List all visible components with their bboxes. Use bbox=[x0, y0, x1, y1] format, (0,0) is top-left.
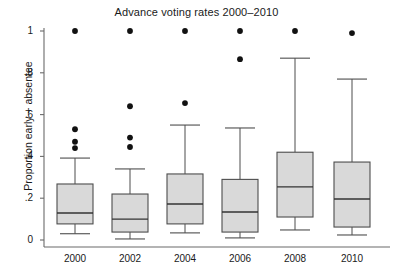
box-group-2006 bbox=[222, 28, 258, 238]
outlier-point bbox=[127, 144, 133, 150]
outlier-point bbox=[127, 135, 133, 141]
x-tick-label: 2004 bbox=[161, 254, 209, 264]
box-rect bbox=[334, 162, 370, 227]
x-tick-label: 2010 bbox=[328, 254, 376, 264]
y-tick-label: .4 bbox=[11, 151, 33, 161]
y-tick-label: .2 bbox=[11, 193, 33, 203]
outlier-point bbox=[182, 28, 188, 34]
outlier-point bbox=[72, 28, 78, 34]
outlier-point bbox=[127, 28, 133, 34]
box-group-2002 bbox=[112, 28, 148, 239]
outlier-point bbox=[72, 139, 78, 145]
x-tick-label: 2006 bbox=[216, 254, 264, 264]
box-rect bbox=[57, 184, 93, 224]
outlier-point bbox=[237, 28, 243, 34]
outlier-point bbox=[292, 28, 298, 34]
box-plot-figure: Advance voting rates 2000–2010 Proportio… bbox=[0, 0, 393, 274]
x-tick-label: 2002 bbox=[106, 254, 154, 264]
outlier-point bbox=[349, 30, 355, 36]
box-group-2010 bbox=[334, 30, 370, 235]
y-tick-label: .6 bbox=[11, 110, 33, 120]
outlier-point bbox=[182, 100, 188, 106]
chart-canvas bbox=[0, 0, 393, 274]
outlier-point bbox=[237, 56, 243, 62]
x-tick-label: 2000 bbox=[51, 254, 99, 264]
y-tick-label: 0 bbox=[11, 235, 33, 245]
box-group-2008 bbox=[277, 28, 313, 230]
box-group-2004 bbox=[167, 28, 203, 233]
box-rect bbox=[112, 194, 148, 232]
x-tick-label: 2008 bbox=[271, 254, 319, 264]
y-tick-label: 1 bbox=[11, 26, 33, 36]
outlier-point bbox=[72, 145, 78, 151]
box-rect bbox=[167, 174, 203, 224]
box-rect bbox=[222, 179, 258, 232]
box-rect bbox=[277, 152, 313, 217]
outlier-point bbox=[72, 126, 78, 132]
y-tick-label: .8 bbox=[11, 68, 33, 78]
box-group-2000 bbox=[57, 28, 93, 234]
outlier-point bbox=[127, 103, 133, 109]
